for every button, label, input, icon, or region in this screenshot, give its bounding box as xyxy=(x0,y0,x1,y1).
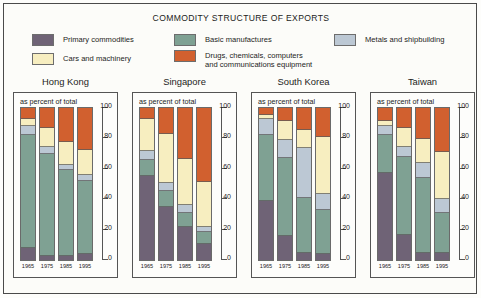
bar-segment-drugs xyxy=(159,108,173,134)
legend-swatch-primary-commodities xyxy=(32,34,54,46)
x-axis-year-label: 1985 xyxy=(413,263,433,269)
bar-segment-primary xyxy=(416,253,430,260)
y-axis xyxy=(102,107,105,259)
panel-title: South Korea xyxy=(247,76,360,87)
y-axis-tick-label: 20 xyxy=(88,224,112,231)
x-axis-year-label: 1965 xyxy=(256,263,276,269)
y-axis xyxy=(459,107,462,259)
x-axis-year-label: 1995 xyxy=(432,263,452,269)
bar-segment-primary xyxy=(159,207,173,260)
y-axis-tick-label: 0 xyxy=(88,254,112,261)
stacked-bar xyxy=(77,107,93,261)
bar-segment-basic xyxy=(21,135,35,249)
plot-box: as percent of total 1965197519851995 020… xyxy=(370,92,475,278)
y-axis xyxy=(340,107,343,259)
x-axis-year-label: 1995 xyxy=(75,263,95,269)
plot-area xyxy=(258,109,334,261)
bar-segment-metals xyxy=(278,140,292,159)
plot-subcaption: as percent of total xyxy=(258,97,315,106)
legend-swatch-metals-and-shipbuilding xyxy=(334,34,356,46)
y-axis-tick-label: 100 xyxy=(88,102,112,109)
bar-segment-drugs xyxy=(259,108,273,115)
x-axis-year-labels: 1965197519851995 xyxy=(139,263,219,273)
panel-title: Taiwan xyxy=(366,76,479,87)
bar-segment-drugs xyxy=(140,108,154,119)
plot-subcaption: as percent of total xyxy=(139,97,196,106)
bar-segment-cars xyxy=(40,128,54,147)
stacked-bar xyxy=(177,107,193,261)
bar-segment-metals xyxy=(297,148,311,198)
bar-segment-drugs xyxy=(297,108,311,130)
y-axis-tick-label: 0 xyxy=(445,254,469,261)
bar-segment-basic xyxy=(435,213,449,252)
plot-box: as percent of total 1965197519851995 020… xyxy=(251,92,356,278)
x-axis-year-label: 1985 xyxy=(175,263,195,269)
panel-title: Hong Kong xyxy=(9,76,122,87)
y-axis xyxy=(221,107,224,259)
bar-segment-primary xyxy=(40,256,54,260)
y-axis-tick-label: 40 xyxy=(88,193,112,200)
bar-segment-drugs xyxy=(378,108,392,121)
y-axis-tick-label: 20 xyxy=(445,224,469,231)
plot-area xyxy=(139,109,215,261)
y-axis-tick-label: 0 xyxy=(207,254,231,261)
y-axis-tick-label: 100 xyxy=(445,102,469,109)
bar-segment-basic xyxy=(278,158,292,236)
stacked-bar xyxy=(20,107,36,261)
bar-segment-cars xyxy=(178,159,192,204)
bar-segment-basic xyxy=(259,135,273,201)
bar-segment-cars xyxy=(397,128,411,147)
legend-label-basic-manufactures: Basic manufactures xyxy=(205,34,272,44)
y-axis-tick-label: 60 xyxy=(88,163,112,170)
x-axis-year-label: 1975 xyxy=(275,263,295,269)
y-axis-tick-label: 60 xyxy=(207,163,231,170)
plot-box: as percent of total 1965197519851995 020… xyxy=(13,92,118,278)
bar-segment-metals xyxy=(178,205,192,213)
bar-segment-basic xyxy=(40,154,54,256)
plot-area xyxy=(20,109,96,261)
bar-segment-primary xyxy=(59,256,73,260)
bar-segment-basic xyxy=(297,198,311,252)
x-axis-year-label: 1965 xyxy=(375,263,395,269)
y-axis-tick-label: 80 xyxy=(326,132,350,139)
bar-segment-primary xyxy=(21,248,35,260)
x-axis-year-label: 1975 xyxy=(394,263,414,269)
bar-segment-cars xyxy=(21,119,35,126)
y-axis-tick-label: 0 xyxy=(326,254,350,261)
bar-segment-basic xyxy=(197,232,211,243)
bar-segment-basic xyxy=(397,157,411,235)
bar-segment-metals xyxy=(416,163,430,177)
x-axis-year-label: 1985 xyxy=(294,263,314,269)
chart-title: COMMODITY STRUCTURE OF EXPORTS xyxy=(4,13,478,23)
bar-segment-cars xyxy=(435,152,449,199)
x-axis-year-label: 1995 xyxy=(313,263,333,269)
panel-taiwan: Taiwan as percent of total 1965197519851… xyxy=(366,76,479,294)
bar-segment-metals xyxy=(378,126,392,134)
bar-segment-cars xyxy=(416,139,430,164)
y-axis-tick-label: 80 xyxy=(88,132,112,139)
y-axis-tick-label: 80 xyxy=(207,132,231,139)
x-axis-year-label: 1975 xyxy=(156,263,176,269)
bar-segment-primary xyxy=(259,201,273,260)
bar-segment-metals xyxy=(140,151,154,159)
y-axis-tick-label: 20 xyxy=(326,224,350,231)
y-axis-tick-label: 100 xyxy=(326,102,350,109)
y-axis-tick-label: 40 xyxy=(207,193,231,200)
stacked-bar xyxy=(415,107,431,261)
y-axis-tick-label: 40 xyxy=(326,193,350,200)
plot-subcaption: as percent of total xyxy=(377,97,434,106)
legend-item-metals-and-shipbuilding: Metals and shipbuilding xyxy=(334,34,444,46)
panel-south-korea: South Korea as percent of total 19651975… xyxy=(247,76,360,294)
x-axis-year-label: 1985 xyxy=(56,263,76,269)
stacked-bar xyxy=(377,107,393,261)
y-axis-tick-label: 80 xyxy=(445,132,469,139)
bar-segment-cars xyxy=(197,182,211,227)
legend-label-cars-and-machinery: Cars and machinery xyxy=(63,53,131,63)
x-axis-year-labels: 1965197519851995 xyxy=(258,263,338,273)
legend-item-basic-manufactures: Basic manufactures xyxy=(174,34,272,46)
stacked-bar xyxy=(139,107,155,261)
bar-segment-basic xyxy=(140,160,154,176)
stacked-bar xyxy=(258,107,274,261)
legend-item-cars-and-machinery: Cars and machinery xyxy=(32,53,131,65)
bar-segment-basic xyxy=(178,213,192,227)
